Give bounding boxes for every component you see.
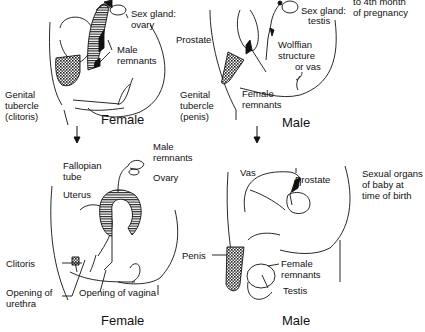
bottom-note-line2: of baby at — [362, 179, 404, 190]
bottom-note-line3: time of birth — [362, 190, 412, 201]
development-diagram: to 4th month of pregnancy Sex gland: ova… — [0, 0, 425, 332]
label-female-remnants-bottom-2: remnants — [281, 269, 321, 280]
top-note-line1: to 4th month — [353, 0, 406, 7]
caption-bottom-female: Female — [101, 314, 144, 328]
label-genital-tubercle-m-1: Genital — [180, 89, 210, 100]
top-note-line2: of pregnancy — [353, 7, 408, 18]
caption-top-female: Female — [101, 113, 144, 127]
caption-top-male: Male — [282, 116, 310, 130]
label-prostate-bottom: Prostate — [295, 174, 330, 185]
label-ovary: Ovary — [153, 172, 178, 183]
caption-bottom-male: Male — [282, 314, 310, 328]
label-uterus: Uterus — [63, 189, 91, 200]
label-female-remnants-bottom-1: Female — [281, 258, 313, 269]
label-genital-tubercle-f-3: (clitoris) — [5, 111, 38, 122]
label-opening-urethra-1: Opening of — [6, 287, 52, 298]
label-wolffian-3: or vas — [295, 61, 321, 72]
label-genital-tubercle-f-1: Genital — [5, 89, 35, 100]
bottom-note-line1: Sexual organs — [362, 168, 423, 179]
label-genital-tubercle-m-2: tubercle — [180, 100, 214, 111]
label-clitoris: Clitoris — [6, 258, 35, 269]
label-sex-gland-ovary-1: Sex gland: — [131, 8, 176, 19]
label-fallopian-tube-2: tube — [63, 171, 82, 182]
label-sex-gland-testis-2: testis — [308, 15, 330, 26]
label-male-remnants-bottom-2: remnants — [153, 152, 193, 163]
label-wolffian-1: Wolffian — [278, 39, 312, 50]
label-male-remnants-bottom-1: Male — [153, 141, 174, 152]
label-vas: Vas — [240, 167, 256, 178]
label-female-remnants-top-2: remnants — [242, 99, 282, 110]
label-genital-tubercle-m-3: (penis) — [180, 111, 209, 122]
label-testis: Testis — [283, 285, 307, 296]
label-male-remnants-1: Male — [117, 44, 138, 55]
label-penis: Penis — [182, 250, 206, 261]
label-male-remnants-2: remnants — [117, 55, 157, 66]
label-female-remnants-top-1: Female — [242, 88, 274, 99]
label-prostate-top: Prostate — [176, 34, 211, 45]
label-genital-tubercle-f-2: tubercle — [5, 100, 39, 111]
label-sex-gland-ovary-2: ovary — [131, 19, 154, 30]
label-fallopian-tube-1: Fallopian — [63, 160, 102, 171]
label-wolffian-2: structure — [278, 50, 315, 61]
label-opening-urethra-2: urethra — [6, 298, 36, 309]
label-opening-vagina: Opening of vagina — [79, 287, 156, 298]
